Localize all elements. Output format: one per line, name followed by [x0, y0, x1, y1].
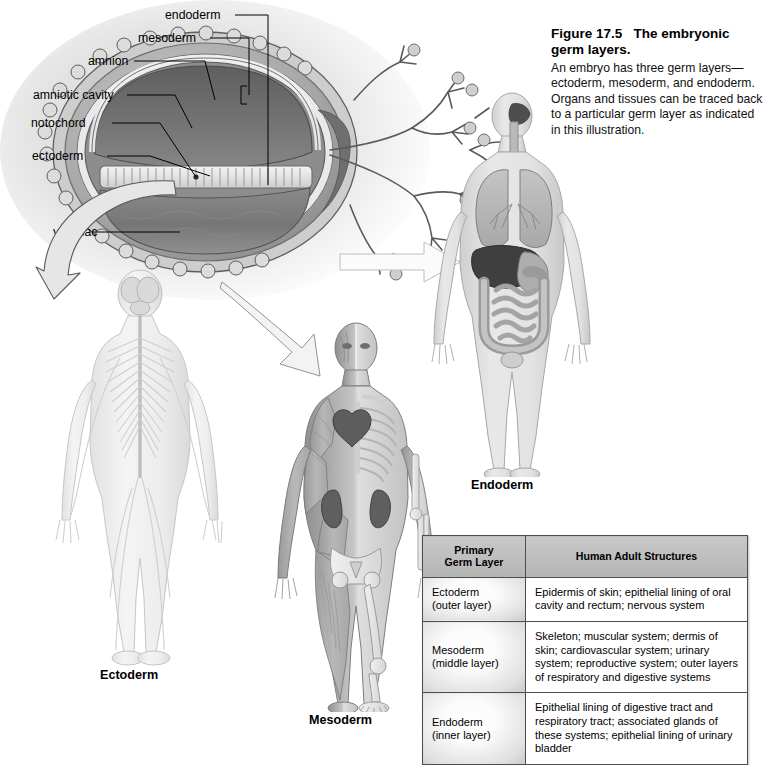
layer-name: Ectoderm	[432, 586, 479, 598]
table-row: Endoderm (inner layer) Epithelial lining…	[423, 693, 748, 764]
figure-label-mesoderm: Mesoderm	[309, 713, 372, 727]
table-row: Mesoderm (middle layer) Skeleton; muscul…	[423, 622, 748, 693]
figure-caption-title: Figure 17.5 The embryonic germ layers.	[551, 26, 766, 58]
figure-number: Figure 17.5	[551, 26, 622, 41]
header-line-1: Primary	[454, 544, 493, 556]
layer-sublabel: (outer layer)	[432, 599, 519, 612]
leader-endoderm	[235, 15, 268, 185]
mesoderm-body-figure	[266, 322, 446, 712]
endoderm-body-figure	[428, 92, 598, 477]
cell-layer-ectoderm: Ectoderm (outer layer)	[423, 577, 526, 621]
leader-amnion	[134, 61, 215, 100]
table-row: Ectoderm (outer layer) Epidermis of skin…	[423, 577, 748, 621]
figure-caption: Figure 17.5 The embryonic germ layers. A…	[551, 26, 766, 138]
germ-layer-table: Primary Germ Layer Human Adult Structure…	[422, 535, 748, 765]
cell-structures-ectoderm: Epidermis of skin; epithelial lining of …	[525, 577, 747, 621]
figure-description: An embryo has three germ layers—ectoderm…	[551, 61, 766, 138]
leader-notochord	[112, 123, 196, 177]
label-endoderm: endoderm	[165, 8, 220, 22]
label-notochord: notochord	[31, 116, 86, 130]
header-human-adult-structures: Human Adult Structures	[525, 536, 747, 578]
cell-layer-mesoderm: Mesoderm (middle layer)	[423, 622, 526, 693]
layer-name: Endoderm	[432, 716, 483, 728]
header-line-2: Germ Layer	[445, 556, 504, 568]
table-header-row: Primary Germ Layer Human Adult Structure…	[423, 536, 748, 578]
urinary-bladder	[501, 352, 523, 368]
germ-layer-table-grid: Primary Germ Layer Human Adult Structure…	[422, 535, 748, 765]
layer-sublabel: (middle layer)	[432, 657, 519, 670]
header-primary-germ-layer: Primary Germ Layer	[423, 536, 526, 578]
cell-structures-mesoderm: Skeleton; muscular system; dermis of ski…	[525, 622, 747, 693]
layer-name: Mesoderm	[432, 644, 484, 656]
cell-layer-endoderm: Endoderm (inner layer)	[423, 693, 526, 764]
cell-structures-endoderm: Epithelial lining of digestive tract and…	[525, 693, 747, 764]
label-amniotic-cavity: amniotic cavity	[33, 88, 114, 102]
label-mesoderm: mesoderm	[138, 31, 196, 45]
ectoderm-body-figure	[50, 268, 230, 668]
layer-sublabel: (inner layer)	[432, 729, 519, 742]
figure-label-ectoderm: Ectoderm	[100, 668, 158, 682]
label-ectoderm: ectoderm	[32, 149, 83, 163]
figure-label-endoderm: Endoderm	[471, 478, 533, 492]
label-amnion: amnion	[88, 54, 128, 68]
leader-ectoderm	[107, 156, 210, 176]
